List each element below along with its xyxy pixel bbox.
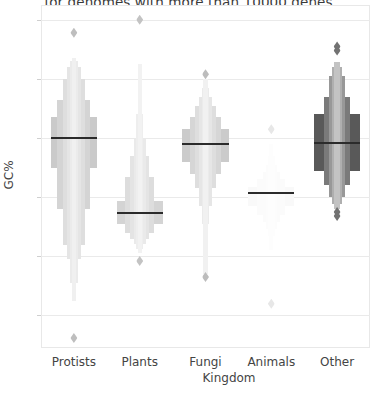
boxen-level <box>334 62 340 209</box>
boxen-group-other <box>41 5 370 348</box>
x-tick-label-fungi: Fungi <box>189 355 221 369</box>
x-axis-label: Kingdom <box>202 371 255 385</box>
chart-root: for genomes with more than 10000 genes 7… <box>0 0 377 397</box>
x-tick-label-protists: Protists <box>52 355 96 369</box>
x-tick-label-other: Other <box>320 355 354 369</box>
x-tick-label-plants: Plants <box>121 355 158 369</box>
plot-area: 706050403020 GC% ProtistsPlantsFungiAnim… <box>41 5 370 348</box>
y-axis-label: GC% <box>2 160 16 189</box>
x-tick-label-animals: Animals <box>247 355 295 369</box>
outlier-marker <box>334 46 341 56</box>
median-line-other <box>314 142 360 144</box>
outlier-marker <box>334 211 341 221</box>
